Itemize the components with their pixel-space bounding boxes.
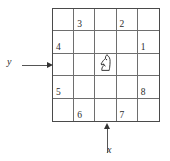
grid-cell[interactable]: 1 bbox=[138, 31, 159, 53]
cell-number-label: 1 bbox=[141, 42, 146, 52]
cell-number-label: 8 bbox=[141, 87, 146, 97]
arrow-up-icon bbox=[104, 123, 110, 129]
arrow-right-icon bbox=[47, 62, 53, 68]
knight-icon[interactable] bbox=[96, 54, 115, 74]
grid-cell[interactable] bbox=[117, 76, 138, 98]
chess-grid: 32415867 bbox=[52, 8, 160, 122]
grid-cell[interactable]: 5 bbox=[53, 76, 74, 98]
diagram-canvas: 32415867 y x bbox=[0, 0, 170, 161]
grid-cell[interactable] bbox=[117, 31, 138, 53]
grid-cell[interactable] bbox=[138, 9, 159, 31]
cell-number-label: 5 bbox=[56, 87, 61, 97]
grid-cell[interactable] bbox=[95, 9, 116, 31]
grid-cell[interactable] bbox=[138, 99, 159, 121]
cell-number-label: 4 bbox=[56, 42, 61, 52]
grid-cell[interactable] bbox=[53, 54, 74, 76]
grid-cell[interactable] bbox=[74, 76, 95, 98]
grid-cell[interactable]: 3 bbox=[74, 9, 95, 31]
grid-cell[interactable] bbox=[95, 54, 116, 76]
grid-cell[interactable] bbox=[74, 31, 95, 53]
y-axis-line bbox=[22, 65, 48, 66]
grid-cell[interactable]: 7 bbox=[117, 99, 138, 121]
y-axis-label: y bbox=[7, 57, 11, 67]
grid-cell[interactable] bbox=[53, 99, 74, 121]
cell-number-label: 3 bbox=[77, 19, 82, 29]
grid-cell[interactable] bbox=[53, 9, 74, 31]
grid-cell[interactable]: 8 bbox=[138, 76, 159, 98]
cell-number-label: 6 bbox=[77, 110, 82, 120]
grid-cell[interactable] bbox=[138, 54, 159, 76]
grid-cell[interactable] bbox=[95, 31, 116, 53]
grid-cell[interactable]: 6 bbox=[74, 99, 95, 121]
cell-number-label: 2 bbox=[120, 19, 125, 29]
cell-number-label: 7 bbox=[120, 110, 125, 120]
grid-cell[interactable]: 2 bbox=[117, 9, 138, 31]
x-axis-line bbox=[107, 129, 108, 153]
grid-cell[interactable]: 4 bbox=[53, 31, 74, 53]
grid-cell[interactable] bbox=[117, 54, 138, 76]
grid-cell[interactable] bbox=[95, 99, 116, 121]
grid-cell[interactable] bbox=[95, 76, 116, 98]
grid-cell[interactable] bbox=[74, 54, 95, 76]
